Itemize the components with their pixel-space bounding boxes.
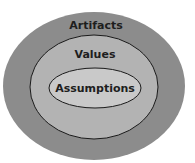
label-assumptions: Assumptions xyxy=(55,82,135,95)
label-values: Values xyxy=(75,48,116,61)
culture-layers-diagram: Artifacts Values Assumptions xyxy=(0,0,195,163)
label-artifacts: Artifacts xyxy=(69,19,123,32)
